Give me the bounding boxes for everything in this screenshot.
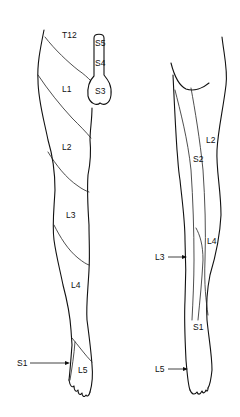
posterior-leg-inner-contour [207, 37, 227, 388]
label-s4: S4 [95, 58, 106, 68]
label-l4: L4 [71, 280, 81, 290]
l3-arrowhead-icon [182, 255, 187, 259]
posterior-leg-outer-contour [173, 75, 190, 390]
label-l5: L5 [78, 365, 88, 375]
l4-boundary [196, 228, 203, 320]
label-l2: L2 [62, 142, 72, 152]
posterior-leg: L2 S2 L4 S1 L3 L5 [155, 37, 227, 394]
label-s5: S5 [95, 38, 106, 48]
label-l2-posterior: L2 [206, 135, 216, 145]
label-s1-anterior: S1 [17, 358, 28, 368]
label-l3: L3 [66, 210, 76, 220]
label-s2: S2 [193, 154, 204, 164]
label-l4-posterior: L4 [207, 236, 217, 246]
label-s1-posterior: S1 [193, 322, 204, 332]
s2-left-boundary [175, 90, 194, 320]
anterior-foot-toes [69, 380, 90, 396]
anterior-leg-inner-contour [87, 108, 93, 392]
t12-l1-boundary [45, 37, 90, 80]
label-s3: S3 [95, 86, 106, 96]
s1-arrowhead-icon [65, 361, 70, 365]
posterior-foot-toes [190, 388, 208, 394]
label-t12: T12 [62, 30, 77, 40]
label-l3-posterior: L3 [155, 252, 165, 262]
anterior-leg: T12 S5 S4 S3 L1 L2 L3 L4 L5 S1 [17, 30, 111, 396]
buttock-crease [171, 63, 209, 90]
dermatome-diagram: T12 S5 S4 S3 L1 L2 L3 L4 L5 S1 L2 S2 L4 … [0, 0, 240, 417]
label-l5-posterior: L5 [155, 364, 165, 374]
l3-l4-boundary [54, 225, 89, 265]
label-l1: L1 [62, 84, 72, 94]
